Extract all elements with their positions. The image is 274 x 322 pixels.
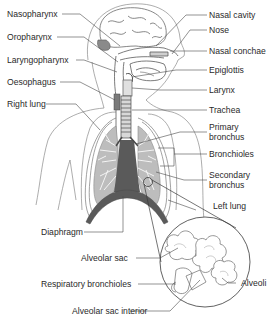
label-trachea: Trachea [209, 105, 240, 115]
label-right-lung: Right lung [7, 99, 46, 109]
label-nose: Nose [209, 25, 229, 35]
label-laryngopharynx: Laryngopharynx [7, 55, 69, 65]
label-left-lung: Left lung [213, 201, 246, 211]
label-alveolar-sac: Alveolar sac [81, 253, 128, 263]
label-secondary-bronchus-line1: Secondary [209, 170, 250, 180]
label-alveolar-sac-interior: Alveolar sac interior [72, 306, 147, 316]
label-diaphragm: Diaphragm [41, 227, 83, 237]
label-nasopharynx: Nasopharynx [7, 9, 58, 19]
label-secondary-bronchus-line2: bronchus [209, 180, 250, 190]
label-primary-bronchus: Primary bronchus [209, 122, 244, 142]
trachea [121, 96, 131, 138]
label-epiglottis: Epiglottis [209, 65, 244, 75]
label-nasal-cavity: Nasal cavity [209, 10, 255, 20]
larynx-shape [123, 80, 132, 96]
cerebellum [97, 40, 110, 50]
label-oesophagus: Oesophagus [7, 77, 56, 87]
respiratory-system-diagram: Nasopharynx Oropharynx Laryngopharynx Oe… [0, 0, 274, 322]
label-primary-bronchus-line1: Primary [209, 122, 244, 132]
oesophagus-shape [114, 94, 120, 110]
label-bronchioles: Bronchioles [209, 149, 254, 159]
label-primary-bronchus-line2: bronchus [209, 132, 244, 142]
label-oropharynx: Oropharynx [7, 32, 52, 42]
brain [100, 8, 166, 48]
label-respiratory-bronchioles: Respiratory bronchioles [41, 279, 131, 289]
label-nasal-conchae: Nasal conchae [209, 46, 266, 56]
label-larynx: Larynx [209, 85, 235, 95]
label-secondary-bronchus: Secondary bronchus [209, 170, 250, 190]
label-alveoli: Alveoli [241, 278, 266, 288]
